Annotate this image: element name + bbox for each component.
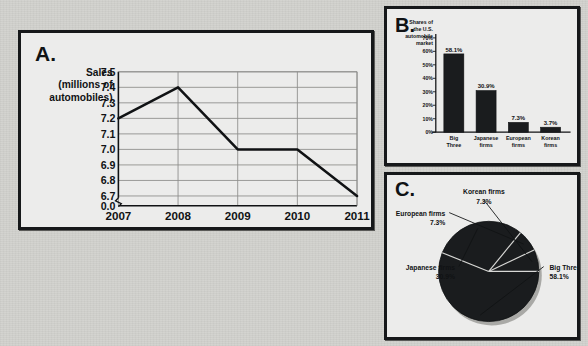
bar-chart-xtick-line: firms [480,142,493,148]
pie-chart-label-line: 7.3% [430,219,445,226]
pie-chart-label-line: European firms [396,210,446,218]
panel-b-bar-chart: B. Shares ofthe U.S.automobilemarket 70%… [384,6,580,166]
pie-chart-label-line: 7.3% [476,198,491,205]
bar-chart-bar [508,122,528,132]
bar-chart-xtick-line: Three [447,142,462,148]
line-chart-ytick: 7.2 [101,112,116,124]
bar-chart-xtick-line: Japanese [474,135,499,141]
bar-chart-ylabel: Shares ofthe U.S.automobilemarket [405,19,433,46]
line-chart-ytick: 6.9 [101,159,116,171]
bar-chart-ytick-labels: 70%60%50%40%30%20%10%0% [423,35,434,135]
line-chart-xtick-labels: 20072008200920102011 [105,209,370,222]
line-chart-xtick: 2008 [165,209,191,222]
panel-a-line-chart: A. Sales(millions ofautomobiles) 7.57.47… [18,30,374,230]
bar-chart-bar [541,127,561,132]
bar-chart-xtick-line: firms [512,142,525,148]
bar-chart-ytick: 50% [423,62,434,68]
bar-chart-ytick: 10% [423,116,434,122]
pie-chart-label-line: 30.9% [436,273,455,280]
line-chart-ytick-labels: 7.57.47.37.27.17.06.96.86.70.0 [101,66,116,212]
bar-chart-xtick-line: Big [450,135,459,141]
bar-chart-ytick: 30% [423,89,434,95]
bar-chart-bar [444,54,464,132]
bar-chart-ytick: 70% [423,35,434,41]
bar-chart-ylabel-line: the U.S. [414,26,434,32]
line-chart-svg: Sales(millions ofautomobiles) 7.57.47.37… [21,33,371,227]
pie-chart-label-line: Korean firms [463,188,505,195]
bar-chart-ytick: 60% [423,48,434,54]
pie-chart-slices [439,221,539,321]
panel-c-pie-chart: C. Big Three58.1%Japanese firms30.9%Euro… [384,172,580,340]
pie-chart-label-line: Big Three [550,264,578,272]
bar-chart-ytick: 40% [423,75,434,81]
line-chart-gridlines [118,72,357,206]
line-chart-xtick: 2010 [284,209,310,222]
line-chart-ytick: 7.4 [101,81,116,93]
bar-chart-xtick-line: European [506,135,531,141]
bar-chart-xtick-labels: BigThreeJapanesefirmsEuropeanfirmsKorean… [447,135,560,148]
bar-chart-ylabel-line: market [416,40,433,46]
line-chart-xtick: 2007 [105,209,131,222]
line-chart-ytick: 7.1 [101,128,116,140]
bar-chart-bar [476,91,496,133]
bar-chart-ylabel-line: Shares of [409,19,433,25]
pie-chart-svg: Big Three58.1%Japanese firms30.9%Europea… [387,175,577,337]
bar-chart-value-label: 30.9% [478,83,496,89]
line-chart-ytick: 6.8 [101,174,116,186]
bar-chart-xtick-line: Korean [541,135,560,141]
bar-chart-ytick: 20% [423,102,434,108]
pie-chart-label-line: Japanese firms [406,264,455,272]
bar-chart-value-label: 7.3% [512,115,526,121]
line-chart-ytick: 7.5 [101,66,116,78]
line-chart-ytick: 7.3 [101,97,116,109]
pie-chart-label-line: 58.1% [550,273,569,280]
line-chart-xtick: 2009 [225,209,251,222]
bar-chart-svg: Shares ofthe U.S.automobilemarket 70%60%… [387,9,577,163]
line-chart-axes [115,72,357,207]
bar-chart-xtick-line: firms [544,142,557,148]
bar-chart-value-label: 58.1% [445,47,463,53]
line-chart-xtick: 2011 [344,209,370,222]
line-chart-ytick: 7.0 [101,143,116,155]
bar-chart-value-label: 3.7% [544,120,558,126]
